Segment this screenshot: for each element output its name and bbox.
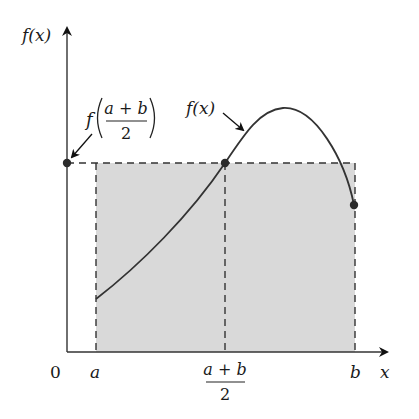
x-axis-label: x: [380, 362, 390, 382]
midpoint-tick-label: a + b 2: [203, 360, 246, 404]
value-label-numerator: a + b: [104, 99, 147, 118]
midpoint-numerator: a + b: [203, 360, 246, 379]
point-f-midpoint-on-axis: [63, 159, 71, 167]
value-label-function: f: [84, 109, 96, 130]
midpoint-value-label: f a + b 2: [84, 98, 155, 143]
midpoint-rule-diagram: f(x) x 0 a b a + b 2 f(x) f a + b 2: [0, 0, 419, 419]
right-paren: [150, 98, 155, 138]
value-label-pointer-arrow: [72, 134, 92, 157]
left-paren: [98, 98, 103, 138]
tick-a-label: a: [90, 362, 100, 382]
point-b-on-curve: [350, 201, 358, 209]
curve-label-pointer-arrow: [223, 113, 243, 130]
origin-label: 0: [50, 362, 61, 382]
y-axis-label: f(x): [20, 25, 51, 45]
midpoint-denominator: 2: [220, 385, 230, 404]
curve-label: f(x): [184, 98, 215, 118]
tick-b-label: b: [350, 362, 361, 382]
point-midpoint-on-curve: [221, 159, 229, 167]
value-label-denominator: 2: [121, 124, 131, 143]
